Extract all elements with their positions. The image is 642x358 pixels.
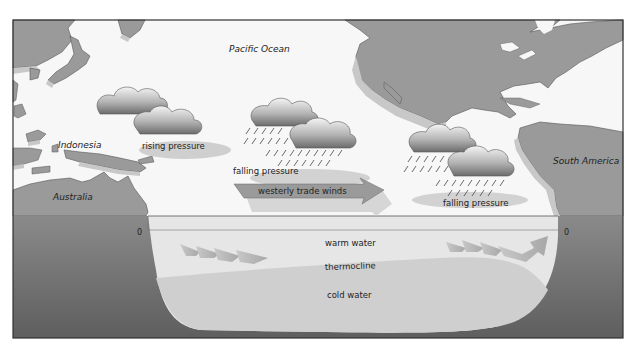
label-depth-zero-left: 0 [137, 228, 142, 237]
label-falling-pressure-center: falling pressure [233, 166, 299, 176]
label-falling-pressure-east: falling pressure [443, 198, 509, 208]
label-cold-water: cold water [327, 290, 372, 300]
label-pacific-ocean: Pacific Ocean [229, 44, 290, 54]
label-australia: Australia [52, 192, 93, 202]
label-rising-pressure: rising pressure [142, 141, 205, 151]
label-depth-zero-right: 0 [564, 228, 569, 237]
el-nino-cross-section-diagram: Pacific Ocean Indonesia Australia South … [0, 0, 642, 358]
label-warm-water: warm water [325, 238, 376, 248]
label-westerly-trade-winds: westerly trade winds [258, 186, 347, 196]
label-south-america: South America [553, 156, 619, 166]
ocean-basin [148, 216, 558, 333]
label-thermocline: thermocline [325, 260, 376, 272]
label-indonesia: Indonesia [58, 140, 102, 150]
